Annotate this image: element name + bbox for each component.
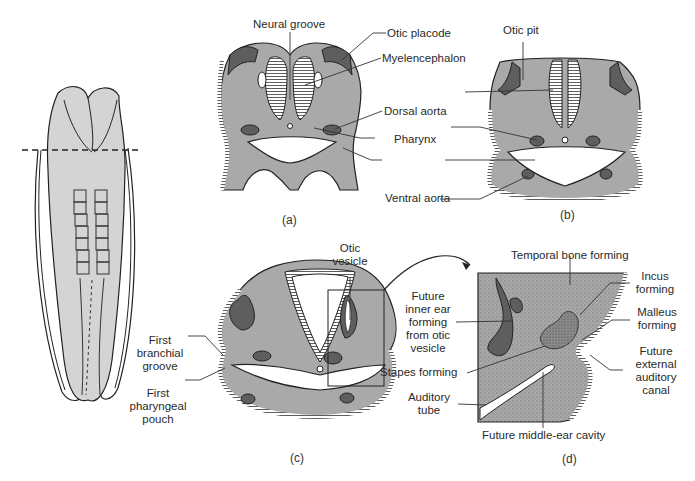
label-malleus-line2: forming [630,319,684,332]
embryo-illustration [22,87,142,401]
label-at-line2: tube [400,404,458,417]
label-fie-line5: vesicle [398,342,458,355]
label-feac-line2: external [626,358,686,371]
label-feac-line3: auditory [626,371,686,384]
caption-a: (a) [282,213,297,227]
label-at-line1: Auditory [400,391,458,404]
label-otic-vesicle-line1: Otic [330,242,370,255]
label-otic-vesicle: Otic vesicle [330,242,370,268]
label-feac-line4: canal [626,384,686,397]
label-temporal-bone: Temporal bone forming [511,249,629,262]
label-fpp-line1: First [126,387,190,400]
caption-c: (c) [290,451,304,465]
label-fpp-line2: pharyngeal [126,400,190,413]
label-stapes: Stapes forming [380,366,457,379]
label-future-inner-ear: Future inner ear forming from otic vesic… [398,290,458,355]
label-fbg-line2: branchial [130,347,190,360]
label-malleus-line1: Malleus [630,306,684,319]
caption-b: (b) [560,208,575,222]
label-future-external-auditory-canal: Future external auditory canal [626,345,686,397]
caption-d: (d) [562,452,577,466]
label-otic-pit: Otic pit [503,24,539,37]
label-feac-line1: Future [626,345,686,358]
label-fpp-line3: pouch [126,413,190,426]
label-pharynx: Pharynx [394,133,436,146]
label-fie-line4: from otic [398,329,458,342]
panel-a [219,32,386,190]
label-ventral-aorta: Ventral aorta [385,192,450,205]
label-fbg-line1: First [130,334,190,347]
label-otic-placode: Otic placode [387,27,451,40]
label-first-pharyngeal-pouch: First pharyngeal pouch [126,387,190,426]
label-neural-groove: Neural groove [253,18,325,31]
label-incus: Incus forming [630,270,680,296]
label-malleus: Malleus forming [630,306,684,332]
label-future-middle-ear: Future middle-ear cavity [482,429,605,442]
panel-d [456,256,630,428]
label-fie-line3: forming [398,316,458,329]
label-incus-line2: forming [630,283,680,296]
label-auditory-tube: Auditory tube [400,391,458,417]
label-fie-line1: Future [398,290,458,303]
label-incus-line1: Incus [630,270,680,283]
label-dorsal-aorta: Dorsal aorta [384,105,447,118]
label-otic-vesicle-line2: vesicle [330,255,370,268]
panel-b [440,42,641,200]
label-fie-line2: inner ear [398,303,458,316]
label-first-branchial-groove: First branchial groove [130,334,190,373]
label-fbg-line3: groove [130,360,190,373]
label-myelencephalon: Myelencephalon [382,52,466,65]
diagram-canvas [0,0,695,481]
